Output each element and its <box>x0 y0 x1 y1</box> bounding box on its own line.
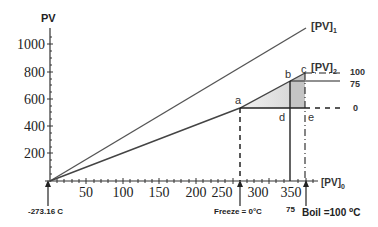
y-tick-800: 800 <box>24 65 45 80</box>
y-tick-1000: 1000 <box>17 37 45 52</box>
point-d-label: d <box>279 111 285 123</box>
y-tick-400: 400 <box>24 119 45 134</box>
x-tick-350: 350 <box>281 185 302 200</box>
pv2-line <box>50 73 305 181</box>
y-tick-600: 600 <box>24 92 45 107</box>
pv1-label: [PV]1 <box>311 20 337 34</box>
y-tick-200: 200 <box>24 146 45 161</box>
x-tick-200: 200 <box>186 185 207 200</box>
x-tick-50: 50 <box>79 185 93 200</box>
boil-annotation: Boil =100 ⁰C <box>302 207 361 218</box>
mid-annotation: 75 <box>286 205 295 214</box>
x-tick-250: 250 <box>212 185 233 200</box>
y-axis-label: PV <box>41 12 56 24</box>
x-axis-label: [PV]0 <box>321 177 345 190</box>
x-tick-300: 300 <box>248 185 269 200</box>
x-tick-150: 150 <box>149 185 170 200</box>
freeze-annotation: Freeze = 0°C <box>214 207 262 216</box>
y-axis-ticks <box>47 37 53 174</box>
x-tick-100: 100 <box>113 185 134 200</box>
point-c-label: c <box>301 63 307 75</box>
pv-temperature-diagram: PV 1000 800 600 400 200 50 100 150 200 2… <box>0 0 378 227</box>
scale-75-label: 75 <box>350 79 360 89</box>
scale-0-label: 0 <box>353 103 358 113</box>
point-a-label: a <box>235 94 242 106</box>
origin-annotation: -273.16 C <box>28 207 63 216</box>
pv2-label: [PV]2 <box>311 61 337 75</box>
shaded-region-bcde <box>290 73 305 108</box>
freeze-arrow-icon <box>237 180 243 206</box>
point-e-label: e <box>308 111 314 123</box>
point-b-label: b <box>285 68 291 80</box>
boil-arrow-icon <box>303 180 309 206</box>
origin-arrow-icon <box>45 180 51 206</box>
scale-100-label: 100 <box>350 67 365 77</box>
